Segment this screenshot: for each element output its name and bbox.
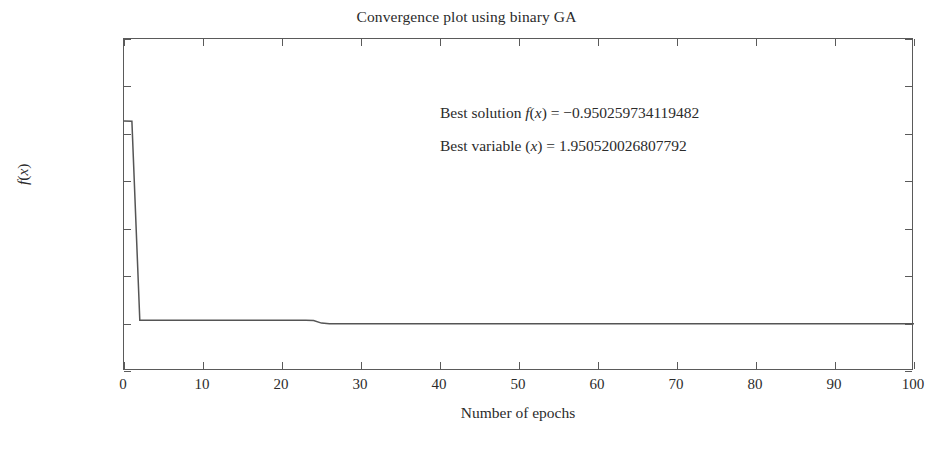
y-axis-title: f(x) (14, 163, 32, 185)
y-tick-mark-right (905, 86, 912, 87)
x-tick-label: 90 (827, 376, 842, 393)
x-tick-mark (124, 362, 125, 369)
y-tick-mark-right (905, 181, 912, 182)
x-tick-label: 60 (590, 376, 605, 393)
x-tick-label: 30 (353, 376, 368, 393)
x-tick-mark-top (835, 39, 836, 46)
y-tick-mark (124, 324, 131, 325)
x-tick-label: 0 (119, 376, 127, 393)
x-axis-title: Number of epochs (123, 404, 913, 422)
plot-area (123, 38, 913, 370)
y-tick-mark-right (905, 134, 912, 135)
y-tick-mark-right (905, 324, 912, 325)
x-tick-label: 50 (511, 376, 526, 393)
x-tick-mark (756, 362, 757, 369)
x-tick-label: 10 (195, 376, 210, 393)
x-tick-mark (914, 362, 915, 369)
annotation-best-solution: Best solution f(x) = −0.950259734119482 (440, 96, 699, 129)
x-tick-mark (598, 362, 599, 369)
y-tick-mark-right (905, 371, 912, 372)
y-tick-mark (124, 39, 131, 40)
x-tick-mark (203, 362, 204, 369)
x-tick-mark-top (914, 39, 915, 46)
x-tick-mark (440, 362, 441, 369)
x-tick-mark-top (361, 39, 362, 46)
x-tick-mark (835, 362, 836, 369)
x-tick-label: 100 (902, 376, 925, 393)
x-tick-label: 40 (432, 376, 447, 393)
x-tick-label: 80 (748, 376, 763, 393)
x-tick-label: 70 (669, 376, 684, 393)
x-tick-mark-top (519, 39, 520, 46)
y-tick-mark (124, 229, 131, 230)
y-tick-mark-right (905, 229, 912, 230)
x-tick-mark (677, 362, 678, 369)
plot-line-svg (124, 39, 914, 371)
x-tick-mark-top (203, 39, 204, 46)
y-tick-mark (124, 181, 131, 182)
x-tick-mark-top (677, 39, 678, 46)
chart-title: Convergence plot using binary GA (0, 8, 933, 26)
x-tick-mark (519, 362, 520, 369)
x-tick-mark-top (756, 39, 757, 46)
x-tick-mark-top (282, 39, 283, 46)
y-tick-mark (124, 276, 131, 277)
x-tick-mark (282, 362, 283, 369)
x-tick-mark-top (440, 39, 441, 46)
annotations-block: Best solution f(x) = −0.950259734119482 … (440, 96, 699, 162)
x-tick-mark-top (124, 39, 125, 46)
x-tick-mark-top (598, 39, 599, 46)
convergence-plot-figure: Convergence plot using binary GA −0.65−0… (0, 0, 933, 453)
y-tick-mark (124, 86, 131, 87)
y-tick-mark (124, 371, 131, 372)
x-tick-mark (361, 362, 362, 369)
annotation-best-variable: Best variable (x) = 1.950520026807792 (440, 129, 699, 162)
x-tick-label: 20 (274, 376, 289, 393)
y-tick-mark (124, 134, 131, 135)
y-tick-mark-right (905, 276, 912, 277)
y-tick-mark-right (905, 39, 912, 40)
